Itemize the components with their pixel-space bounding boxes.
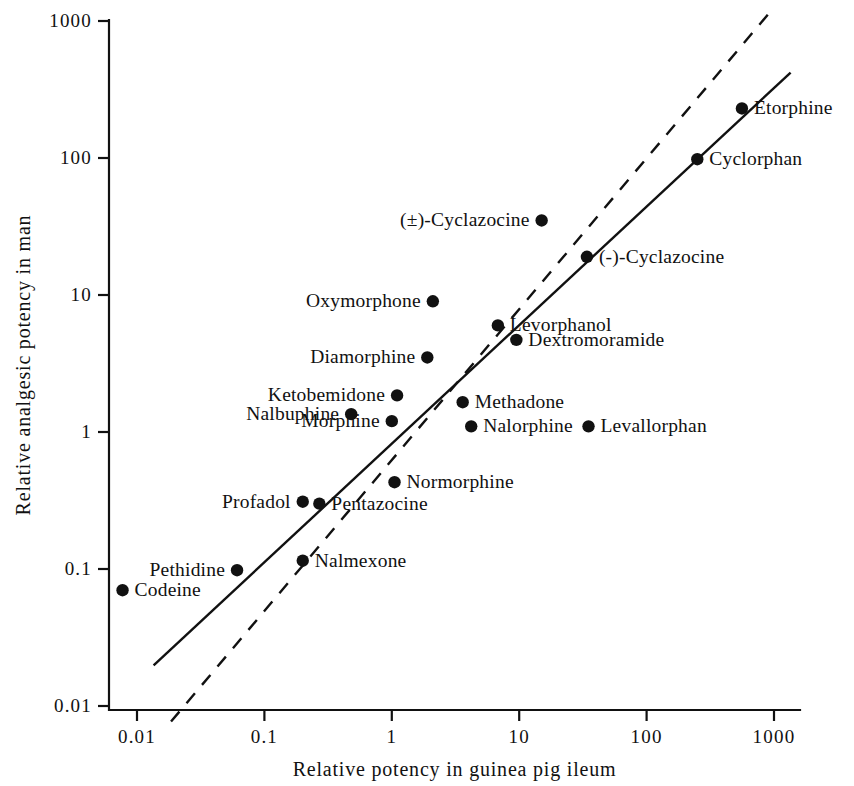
data-point-morphine — [386, 415, 398, 427]
data-point-etorphine — [736, 102, 748, 114]
point-label-pethidine: Pethidine — [150, 559, 225, 581]
point-label-nalmexone: Nalmexone — [315, 550, 407, 572]
data-point-nalorphine — [465, 420, 477, 432]
axis-frame — [109, 20, 800, 710]
point-label-levallorphan: Levallorphan — [601, 415, 707, 437]
point-label-diamorphine: Diamorphine — [310, 346, 415, 368]
data-point-normorphine — [388, 476, 400, 488]
x-tick-label: 10 — [508, 726, 529, 748]
data-point-pethidine — [231, 564, 243, 576]
figure-container: 0.010.111010010000.010.11101001000Etorph… — [0, 0, 854, 786]
data-point-levorphanol — [492, 319, 504, 331]
axes-group — [98, 20, 800, 721]
point-label-normorphine: Normorphine — [406, 471, 513, 493]
y-tick-label: 0.1 — [20, 558, 92, 580]
point-label-etorphine: Etorphine — [754, 97, 833, 119]
x-tick-label: 1 — [386, 726, 397, 748]
data-point-oxymorphone — [427, 295, 439, 307]
x-tick-label: 100 — [631, 726, 663, 748]
data-point-ketobemidone — [391, 389, 403, 401]
point-label-profadol: Profadol — [222, 491, 291, 513]
x-tick-label: 0.01 — [118, 726, 156, 748]
data-point-pentazocine — [313, 497, 325, 509]
identity-line — [171, 14, 768, 721]
y-tick-label: 1000 — [20, 10, 92, 32]
data-point-codeine — [116, 584, 128, 596]
x-tick-label: 0.1 — [251, 726, 278, 748]
point-label-nalorphine: Nalorphine — [483, 415, 573, 437]
point-label-cyclorphan: Cyclorphan — [709, 148, 802, 170]
point-label-oxymorphone: Oxymorphone — [306, 290, 421, 312]
plot-canvas — [0, 0, 854, 786]
y-tick-label: 100 — [20, 147, 92, 169]
point-label-cyclazocine: (±)-Cyclazocine — [400, 209, 530, 231]
trend-lines-group — [154, 14, 791, 721]
point-label-cyclazocine: (-)-Cyclazocine — [599, 246, 724, 268]
data-point-nalmexone — [297, 554, 309, 566]
x-tick-label: 1000 — [753, 726, 796, 748]
data-point-levallorphan — [582, 420, 594, 432]
data-point-diamorphine — [421, 351, 433, 363]
point-label-methadone: Methadone — [475, 391, 565, 413]
x-axis-title: Relative potency in guinea pig ileum — [293, 758, 617, 781]
point-label-dextromoramide: Dextromoramide — [528, 329, 664, 351]
data-point-profadol — [297, 495, 309, 507]
point-label-pentazocine: Pentazocine — [331, 493, 427, 515]
data-point-cyclazocine — [535, 214, 547, 226]
data-point-cyclorphan — [691, 153, 703, 165]
data-point-cyclazocine — [581, 251, 593, 263]
point-label-morphine: Morphine — [301, 410, 380, 432]
data-point-methadone — [456, 396, 468, 408]
y-tick-label: 0.01 — [20, 695, 92, 717]
y-axis-title: Relative analgesic potency in man — [12, 215, 35, 516]
point-label-codeine: Codeine — [135, 579, 201, 601]
